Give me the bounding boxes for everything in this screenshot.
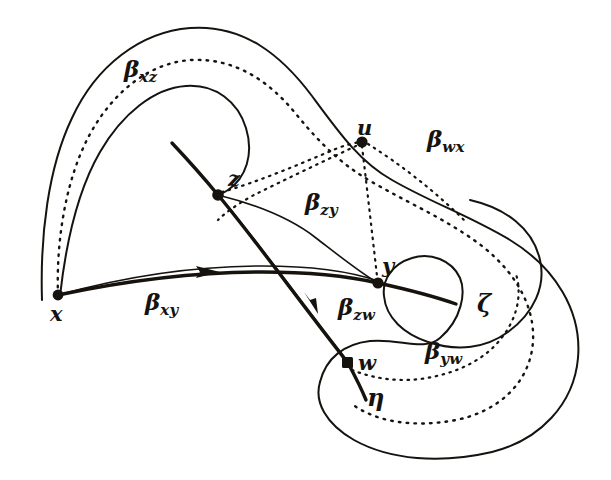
geodesic-label-beta-yw: βyw (425, 339, 462, 367)
point-label-u: u (357, 117, 372, 139)
point-label-x: x (50, 303, 63, 325)
geodesic-label-beta-zw: βzw (338, 295, 375, 323)
geodesic-companion-x-to-y (58, 266, 378, 295)
vertex-dot-w (342, 357, 353, 368)
ray-label-eta: η (367, 386, 384, 410)
point-label-w: w (358, 352, 376, 374)
dotted-segment-u-to-y (362, 146, 377, 276)
curve-z-to-y (218, 195, 378, 283)
geodesic-label-beta-wx: βwx (427, 127, 465, 155)
ray-label-zeta: ζ (477, 292, 491, 316)
geodesic-label-beta-zy: βzy (305, 190, 338, 218)
point-label-y: y (382, 255, 394, 277)
geodesic-companion-z-to-w (222, 199, 352, 367)
dotted-segment-z-to-u (222, 142, 360, 192)
vertex-dot-y (372, 277, 383, 288)
geodesic-segment-z-upper (172, 143, 218, 195)
geodesic-label-beta-xz: βxz (124, 57, 157, 85)
geodesic-diagram-figure: x z u y w ζ η βxz βwx βzy βxy βzw βyw (0, 0, 611, 480)
vertex-dot-x (53, 290, 64, 301)
geodesic-label-beta-xy: βxy (145, 290, 178, 318)
vertex-dot-z (212, 189, 224, 201)
diagram-canvas (0, 0, 611, 480)
geodesic-segment-y-to-zeta (378, 283, 456, 304)
point-label-z: z (228, 168, 240, 190)
